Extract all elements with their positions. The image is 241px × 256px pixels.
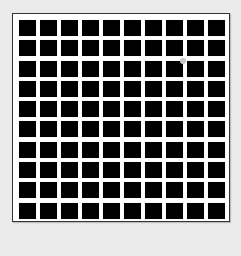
- grid-cell: [40, 61, 57, 77]
- grid-cell: [124, 182, 141, 198]
- grid-cell: [82, 61, 99, 77]
- grid-cell: [208, 182, 225, 198]
- grid-cell: [61, 203, 78, 219]
- grid-cell: [103, 162, 120, 178]
- grid-cell: [61, 101, 78, 117]
- grid-cell: [40, 142, 57, 158]
- grid-cell: [19, 81, 36, 97]
- grid-cell: [145, 81, 162, 97]
- grid-cell: [145, 121, 162, 137]
- grid-cell: [208, 81, 225, 97]
- grid-cell: [208, 40, 225, 56]
- grid-cell: [61, 20, 78, 36]
- grid-cell: [208, 121, 225, 137]
- grid-cell: [124, 121, 141, 137]
- grid-cell: [103, 121, 120, 137]
- grid-cell: [82, 182, 99, 198]
- grid-cell: [82, 121, 99, 137]
- grid-cell: [40, 20, 57, 36]
- grid-cell: [82, 142, 99, 158]
- grid-cell: [82, 203, 99, 219]
- grid-cell: [103, 40, 120, 56]
- grid-cell: [103, 20, 120, 36]
- grid-cell: [145, 40, 162, 56]
- grid-cell: [19, 142, 36, 158]
- grid-cell: [40, 121, 57, 137]
- grid-cell: [124, 40, 141, 56]
- grid-cell: [187, 20, 204, 36]
- grid-cell: [187, 162, 204, 178]
- grid-cell: [124, 81, 141, 97]
- grid-cell: [187, 61, 204, 77]
- grid-cell: [187, 121, 204, 137]
- grid-cell: [61, 81, 78, 97]
- grid-cell: [40, 203, 57, 219]
- grid-cell: [103, 61, 120, 77]
- grid-cell: [145, 142, 162, 158]
- grid-cell: [82, 81, 99, 97]
- grid-cell: [61, 162, 78, 178]
- grid-cell: [61, 142, 78, 158]
- grid-cell: [166, 162, 183, 178]
- grid-cell: [19, 203, 36, 219]
- grid-cell: [19, 40, 36, 56]
- grid-cell: [166, 81, 183, 97]
- grid-cell: [19, 182, 36, 198]
- grid-cell: [82, 20, 99, 36]
- grid-cell: [187, 81, 204, 97]
- grid-cell: [82, 162, 99, 178]
- grid-cell: [208, 20, 225, 36]
- grid-cell: [19, 20, 36, 36]
- grid-cell: [208, 101, 225, 117]
- grid-frame: [12, 13, 230, 222]
- grid-cell: [187, 101, 204, 117]
- grid-cell: [187, 142, 204, 158]
- grid-cell: [40, 101, 57, 117]
- grid-cell: [145, 182, 162, 198]
- grid-cell: [166, 182, 183, 198]
- grid-cell: [208, 203, 225, 219]
- grid-cell: [82, 40, 99, 56]
- grid-cell: [61, 61, 78, 77]
- grid-cell: [187, 203, 204, 219]
- grid-cell: [145, 61, 162, 77]
- grid-cell: [145, 101, 162, 117]
- grid-cell: [145, 203, 162, 219]
- grid-cell: [208, 162, 225, 178]
- grid-cell: [166, 20, 183, 36]
- grid-cell: [103, 182, 120, 198]
- grid-cell: [208, 61, 225, 77]
- grid-cell: [166, 40, 183, 56]
- grid-cell: [19, 61, 36, 77]
- hermann-grid: [19, 20, 225, 219]
- grid-cell: [82, 101, 99, 117]
- grid-cell: [166, 203, 183, 219]
- grid-cell: [124, 20, 141, 36]
- grid-cell: [124, 203, 141, 219]
- grid-cell: [103, 81, 120, 97]
- grid-cell: [166, 101, 183, 117]
- grid-cell: [145, 162, 162, 178]
- grid-cell: [61, 40, 78, 56]
- grid-cell: [19, 101, 36, 117]
- gray-intersection-dot: [180, 58, 186, 64]
- grid-cell: [145, 20, 162, 36]
- grid-cell: [124, 61, 141, 77]
- grid-cell: [40, 81, 57, 97]
- grid-cell: [61, 121, 78, 137]
- grid-cell: [187, 40, 204, 56]
- grid-cell: [166, 142, 183, 158]
- grid-cell: [103, 203, 120, 219]
- grid-cell: [124, 142, 141, 158]
- grid-cell: [40, 162, 57, 178]
- grid-cell: [61, 182, 78, 198]
- grid-cell: [124, 101, 141, 117]
- grid-cell: [208, 142, 225, 158]
- grid-cell: [124, 162, 141, 178]
- grid-cell: [187, 182, 204, 198]
- grid-cell: [103, 101, 120, 117]
- grid-cell: [40, 40, 57, 56]
- grid-cell: [40, 182, 57, 198]
- grid-cell: [19, 162, 36, 178]
- grid-cell: [19, 121, 36, 137]
